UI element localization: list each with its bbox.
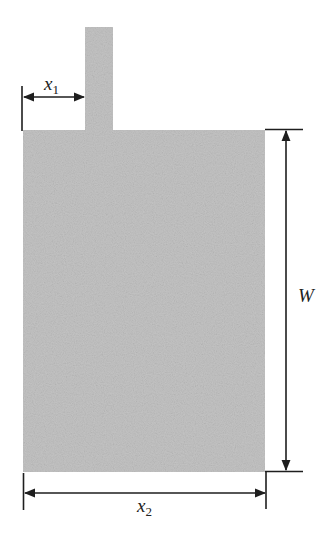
w-dimension: W (265, 130, 316, 472)
x2-label: x2 (136, 495, 152, 519)
x1-label: x1 (43, 73, 59, 97)
patch-rectangle (23, 130, 265, 472)
w-label: W (298, 285, 316, 306)
x2-dimension: x2 (24, 471, 267, 519)
x1-dimension: x1 (22, 73, 84, 131)
patch-antenna-diagram: x1 W x2 (0, 0, 331, 535)
feed-line (85, 27, 113, 131)
